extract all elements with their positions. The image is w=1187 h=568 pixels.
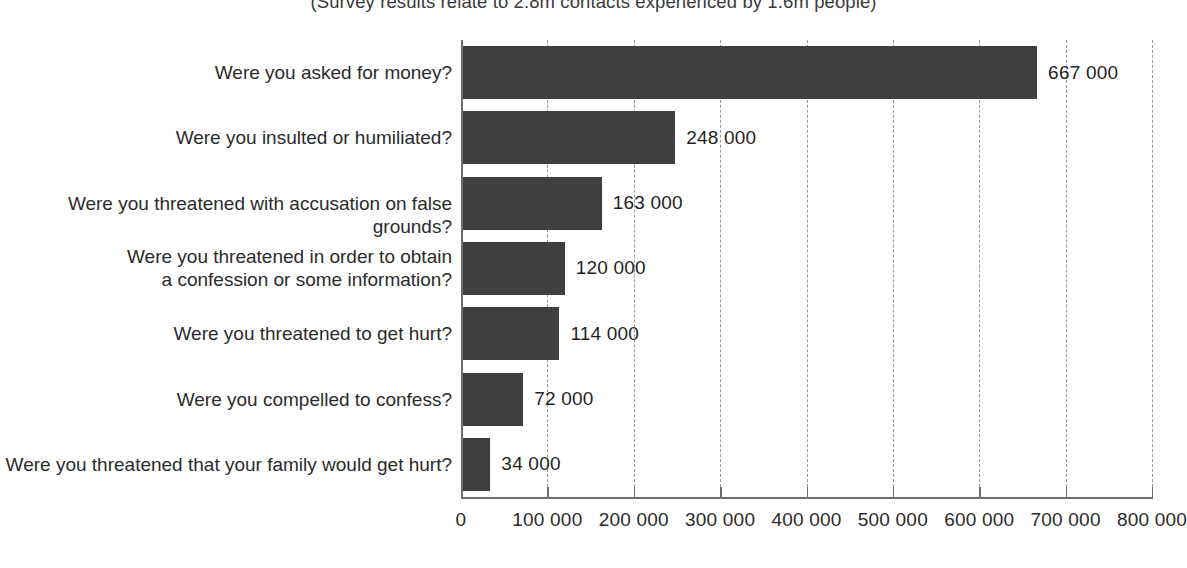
x-axis-tick-label: 500 000	[858, 509, 928, 531]
gridline-700000	[1066, 40, 1067, 497]
bar[interactable]	[461, 438, 490, 491]
bar-value-label: 248 000	[686, 127, 756, 149]
bar-value-label: 114 000	[570, 323, 639, 345]
gridline-600000	[979, 40, 980, 497]
category-label: Were you compelled to confess?	[0, 388, 452, 411]
x-axis-tick	[893, 487, 894, 498]
x-axis-tick-label: 800 000	[1117, 509, 1187, 531]
x-axis-tick-label: 100 000	[512, 509, 582, 531]
x-axis-tick-label: 600 000	[944, 509, 1014, 531]
x-axis-tick-label: 0	[456, 509, 467, 531]
plot-area	[461, 40, 1152, 497]
x-axis-tick-label: 700 000	[1031, 509, 1101, 531]
category-label: Were you threatened in order to obtain a…	[0, 245, 452, 291]
x-axis-tick-label: 200 000	[599, 509, 669, 531]
x-axis-tick-label: 300 000	[685, 509, 755, 531]
x-axis-tick	[720, 487, 721, 498]
bar-value-label: 163 000	[613, 192, 683, 214]
gridline-500000	[893, 40, 894, 497]
horizontal-bar-chart: 0100 000200 000300 000400 000500 000600 …	[0, 0, 1187, 568]
category-label: Were you threatened to get hurt?	[0, 322, 452, 345]
category-label: Were you threatened that your family wou…	[0, 453, 452, 476]
gridline-800000	[1152, 40, 1153, 497]
category-label: Were you asked for money?	[0, 61, 452, 84]
footer-note-container	[0, 560, 1187, 568]
x-axis-tick	[1152, 487, 1153, 498]
x-axis-tick	[979, 487, 980, 498]
gridline-300000	[720, 40, 721, 497]
bar[interactable]	[461, 242, 565, 295]
bar[interactable]	[461, 373, 523, 426]
category-label: Were you threatened with accusation on f…	[0, 192, 452, 238]
bar-value-label: 72 000	[534, 388, 593, 410]
gridline-400000	[807, 40, 808, 497]
bar[interactable]	[461, 177, 602, 230]
bar[interactable]	[461, 46, 1037, 99]
x-axis-tick	[547, 487, 548, 498]
x-axis-tick	[461, 487, 462, 498]
x-axis-tick-label: 400 000	[771, 509, 841, 531]
bar-value-label: 667 000	[1048, 62, 1118, 84]
x-axis-tick	[807, 487, 808, 498]
y-axis-line	[461, 40, 463, 498]
x-axis-tick	[634, 487, 635, 498]
category-label: Were you insulted or humiliated?	[0, 126, 452, 149]
bar-value-label: 34 000	[501, 453, 560, 475]
bar[interactable]	[461, 307, 559, 360]
bar[interactable]	[461, 111, 675, 164]
bar-value-label: 120 000	[576, 257, 646, 279]
x-axis-tick	[1066, 487, 1067, 498]
